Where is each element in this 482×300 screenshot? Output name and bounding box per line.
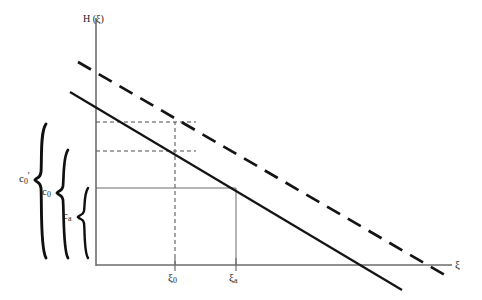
x-axis-label: ξ [455,259,460,270]
brace-label-c0: c0 [42,186,51,199]
diagram-svg [0,0,482,300]
brace-label-ca-sub: a [68,214,72,223]
x-tick-label-xi0: ξ0 [168,272,177,285]
x-axis-label-text: ξ [455,258,460,270]
y-axis-label: H (ξ) [83,14,104,24]
brace-label-ca: ca [63,210,71,223]
x-tick-label-xia: ξa [229,272,237,285]
axes-group [96,18,452,271]
data-lines [70,62,450,290]
construction-lines [96,122,236,265]
brace-label-c0prime-mark: ' [28,171,30,181]
dashed-thick-line [78,62,450,278]
figure-canvas: H (ξ) ξ ξ0 ξa c0' c0 ca [0,0,482,300]
x-tick-label-xi0-sub: 0 [173,276,177,285]
y-axis-label-text: H (ξ) [83,13,104,24]
brace-c0 [57,150,68,258]
x-tick-label-xia-sub: a [234,276,238,285]
brace-label-c0-sub: 0 [47,190,51,199]
brace-ca [78,188,88,258]
brace-label-c0prime: c0' [19,172,30,186]
